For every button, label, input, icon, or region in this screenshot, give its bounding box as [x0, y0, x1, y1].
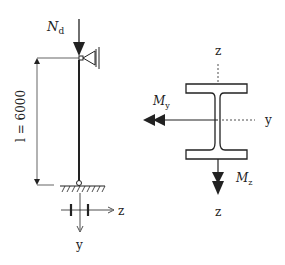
cross-section: My Mz z y z	[143, 44, 272, 219]
axis-z-top-label: z	[215, 44, 221, 58]
structural-diagram: Nd	[0, 0, 285, 265]
moment-z-arrow	[212, 159, 224, 195]
ground-support	[60, 186, 105, 192]
local-axes	[61, 193, 114, 232]
moment-y-label: My	[152, 94, 170, 110]
load-label: Nd	[46, 19, 64, 36]
column-diagram: Nd	[14, 19, 124, 252]
moment-y-arrow	[143, 114, 218, 126]
length-label: l = 6000	[14, 90, 28, 142]
top-roller-support	[79, 47, 99, 69]
axial-load-arrow	[73, 19, 85, 56]
length-dimension	[34, 58, 79, 185]
axis-y-label: y	[264, 113, 272, 127]
local-axis-z-label: z	[118, 204, 124, 218]
axis-z-bottom-label: z	[215, 205, 221, 219]
i-beam-outline	[186, 84, 247, 159]
bottom-pin	[77, 181, 82, 186]
moment-z-label: Mz	[235, 171, 253, 187]
local-axis-y-label: y	[75, 238, 83, 252]
